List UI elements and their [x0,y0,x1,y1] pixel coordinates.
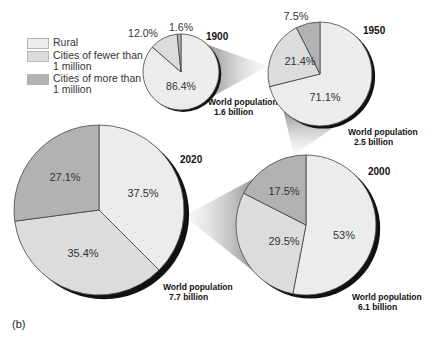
pie-year-label: 1900 [206,31,229,42]
slice-label-small: 29.5% [268,235,299,247]
population-value: 7.7 billion [169,292,208,302]
population-label: World population [208,97,278,107]
legend-swatch-large-cities [27,74,49,85]
pie-2000: 53%29.5%17.5%2000World population6.1 bil… [236,155,422,312]
population-label: World population [163,282,233,292]
population-value: 6.1 billion [358,302,397,312]
legend-label-large-cities: Cities of more than 1 million [53,73,141,95]
slice-label-rural: 37.5% [127,187,158,199]
slice-label-rural: 71.1% [309,91,340,103]
slice-label-large: 1.6% [169,21,193,33]
population-value: 2.5 billion [354,137,393,147]
legend-item-large-cities: Cities of more than 1 million [27,73,143,95]
slice-label-large: 27.1% [49,171,80,183]
pie-year-label: 2000 [368,166,391,177]
legend-item-rural: Rural [27,37,143,49]
legend-item-small-cities: Cities of fewer than 1 million [27,50,143,72]
slice-label-small: 21.4% [284,55,315,67]
slice-label-large: 7.5% [283,10,308,22]
pie-year-label: 1950 [363,25,386,36]
population-label: World population [352,292,422,302]
legend-swatch-rural [27,38,49,49]
panel-label: (b) [12,318,25,330]
slice-label-rural: 86.4% [166,80,196,92]
legend: Rural Cities of fewer than 1 million Cit… [27,37,143,96]
population-label: World population [348,127,418,137]
legend-label-rural: Rural [53,37,78,48]
legend-label-small-cities: Cities of fewer than 1 million [53,50,143,72]
population-value: 1.6 billion [214,107,253,117]
pie-year-label: 2020 [180,154,203,165]
legend-swatch-small-cities [27,51,49,62]
slice-label-small: 35.4% [67,247,98,259]
slice-label-rural: 53% [333,229,355,241]
slice-label-large: 17.5% [268,185,299,197]
